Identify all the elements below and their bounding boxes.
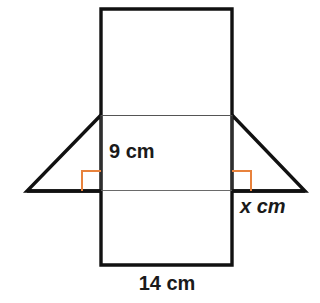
geometry-figure: 9 cm x cm 14 cm: [0, 0, 320, 303]
top-rectangle: [101, 9, 232, 115]
geometry-diagram-canvas: 9 cm x cm 14 cm: [0, 0, 320, 303]
slant-label: x cm: [239, 195, 286, 217]
base-label: 14 cm: [139, 272, 196, 294]
height-label: 9 cm: [109, 140, 155, 162]
bottom-rectangle: [101, 191, 232, 265]
